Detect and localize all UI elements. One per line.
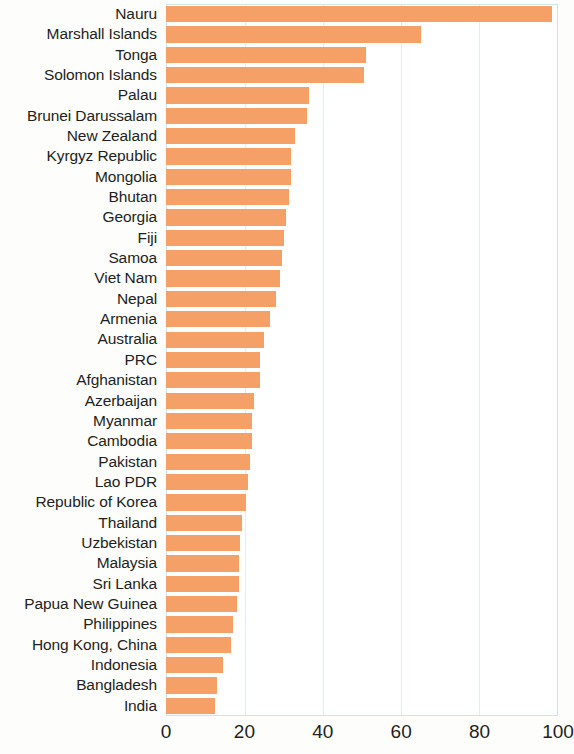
category-label: Nepal xyxy=(0,289,162,309)
category-label: Solomon Islands xyxy=(0,65,162,85)
bar-row xyxy=(166,350,558,370)
category-label: Afghanistan xyxy=(0,370,162,390)
bar xyxy=(166,26,421,42)
category-label: Georgia xyxy=(0,207,162,227)
x-tick-label: 20 xyxy=(234,720,255,744)
bar-row xyxy=(166,207,558,227)
bar xyxy=(166,67,364,83)
bar xyxy=(166,47,366,63)
bar xyxy=(166,230,284,246)
x-tick-label: 80 xyxy=(469,720,490,744)
category-label: Azerbaijan xyxy=(0,391,162,411)
bar xyxy=(166,148,291,164)
bar xyxy=(166,311,270,327)
category-label: Nauru xyxy=(0,4,162,24)
bar-row xyxy=(166,391,558,411)
bar-row xyxy=(166,248,558,268)
bar-row xyxy=(166,635,558,655)
bar-row xyxy=(166,492,558,512)
bar xyxy=(166,128,295,144)
category-label: Kyrgyz Republic xyxy=(0,146,162,166)
bar-row xyxy=(166,411,558,431)
x-tick-label: 60 xyxy=(391,720,412,744)
bar-chart: NauruMarshall IslandsTongaSolomon Island… xyxy=(0,0,574,754)
bar-row xyxy=(166,228,558,248)
bar-row xyxy=(166,85,558,105)
category-label: Australia xyxy=(0,329,162,349)
category-label: Bhutan xyxy=(0,187,162,207)
bar xyxy=(166,454,250,470)
category-label: Armenia xyxy=(0,309,162,329)
category-label: Uzbekistan xyxy=(0,533,162,553)
bar xyxy=(166,616,233,632)
bar-row xyxy=(166,472,558,492)
bar-row xyxy=(166,289,558,309)
bar xyxy=(166,270,280,286)
category-label: Viet Nam xyxy=(0,268,162,288)
bar-row xyxy=(166,187,558,207)
bar-row xyxy=(166,146,558,166)
bar xyxy=(166,576,239,592)
bar-row xyxy=(166,126,558,146)
bar xyxy=(166,393,254,409)
category-label: Malaysia xyxy=(0,553,162,573)
bars-layer xyxy=(166,4,558,716)
category-label: Pakistan xyxy=(0,452,162,472)
category-label: Hong Kong, China xyxy=(0,635,162,655)
bar-row xyxy=(166,24,558,44)
x-tick-label: 100 xyxy=(542,720,574,744)
bar xyxy=(166,555,239,571)
category-label: Indonesia xyxy=(0,655,162,675)
bar-row xyxy=(166,329,558,349)
bar xyxy=(166,474,248,490)
category-label: Myanmar xyxy=(0,411,162,431)
bar-row xyxy=(166,309,558,329)
category-label: Marshall Islands xyxy=(0,24,162,44)
bar-row xyxy=(166,614,558,634)
category-axis: NauruMarshall IslandsTongaSolomon Island… xyxy=(0,4,162,716)
bar xyxy=(166,657,223,673)
bar-row xyxy=(166,696,558,716)
bar-row xyxy=(166,553,558,573)
bar-row xyxy=(166,594,558,614)
bar xyxy=(166,677,217,693)
bar-row xyxy=(166,574,558,594)
category-label: Cambodia xyxy=(0,431,162,451)
bar xyxy=(166,352,260,368)
bar-row xyxy=(166,675,558,695)
bar-row xyxy=(166,167,558,187)
bar xyxy=(166,209,286,225)
bar xyxy=(166,637,231,653)
bar xyxy=(166,169,291,185)
bar-row xyxy=(166,106,558,126)
category-label: Fiji xyxy=(0,228,162,248)
bar xyxy=(166,372,260,388)
bar-row xyxy=(166,65,558,85)
category-label: Palau xyxy=(0,85,162,105)
bar xyxy=(166,433,252,449)
category-label: Samoa xyxy=(0,248,162,268)
x-axis: 020406080100 xyxy=(166,720,558,750)
bar xyxy=(166,535,240,551)
bar-row xyxy=(166,45,558,65)
bar xyxy=(166,108,307,124)
bar xyxy=(166,87,309,103)
bar-row xyxy=(166,513,558,533)
bar xyxy=(166,291,276,307)
category-label: Papua New Guinea xyxy=(0,594,162,614)
bar xyxy=(166,596,237,612)
bar xyxy=(166,189,289,205)
category-label: Lao PDR xyxy=(0,472,162,492)
bar xyxy=(166,413,252,429)
x-tick-label: 0 xyxy=(161,720,172,744)
category-label: India xyxy=(0,696,162,716)
bar xyxy=(166,515,242,531)
category-label: Bangladesh xyxy=(0,675,162,695)
bar-row xyxy=(166,431,558,451)
bar-row xyxy=(166,268,558,288)
category-label: Mongolia xyxy=(0,167,162,187)
bar-row xyxy=(166,370,558,390)
bar-row xyxy=(166,655,558,675)
bar xyxy=(166,250,282,266)
category-label: PRC xyxy=(0,350,162,370)
